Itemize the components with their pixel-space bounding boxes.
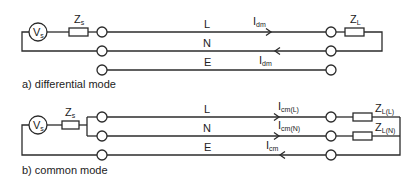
conductor-label-l: L — [204, 103, 210, 115]
caption-common-mode: b) common mode — [22, 164, 108, 176]
svg-text:ZL(N): ZL(N) — [375, 121, 395, 135]
voltage-source-icon: Vs — [29, 23, 47, 41]
svg-text:ZL: ZL — [350, 13, 361, 26]
conductor-label-l: L — [204, 18, 210, 30]
emc-mode-diagram: Vs Zs L N E Idm Idm ZL — [0, 0, 418, 183]
load-impedance-n-icon: ZL(N) — [353, 121, 395, 140]
terminal-icon — [97, 112, 107, 122]
load-impedance-icon: ZL — [345, 13, 364, 36]
svg-text:Zs: Zs — [65, 106, 76, 119]
conductor-label-e: E — [204, 141, 211, 153]
terminal-icon — [326, 65, 336, 75]
terminal-icon — [326, 131, 336, 141]
current-label-cm-e: Icm — [266, 139, 279, 152]
terminal-icon — [326, 27, 336, 37]
voltage-source-icon: Vs — [29, 116, 47, 134]
conductor-label-e: E — [204, 56, 211, 68]
caption-differential-mode: a) differential mode — [22, 78, 116, 90]
load-impedance-l-icon: ZL(L) — [353, 102, 394, 121]
differential-mode-circuit: Vs Zs L N E Idm Idm ZL — [22, 13, 382, 90]
terminal-icon — [97, 46, 107, 56]
terminal-icon — [97, 27, 107, 37]
terminal-icon — [97, 131, 107, 141]
current-label-dm-l: Idm — [253, 15, 266, 28]
terminal-icon — [97, 150, 107, 160]
terminal-icon — [97, 65, 107, 75]
common-mode-circuit: Vs Zs L N E Icm(L) Icm(N) Icm ZL — [22, 100, 400, 176]
source-impedance-icon: Zs — [62, 106, 79, 129]
terminal-icon — [326, 150, 336, 160]
svg-text:Zs: Zs — [74, 13, 85, 26]
terminal-icon — [326, 112, 336, 122]
current-label-cm-n: Icm(N) — [278, 119, 300, 133]
current-label-dm-n: Idm — [259, 54, 272, 67]
source-impedance-icon: Zs — [69, 13, 88, 36]
terminal-icon — [326, 46, 336, 56]
conductor-label-n: N — [203, 37, 211, 49]
current-label-cm-l: Icm(L) — [278, 100, 299, 114]
svg-text:ZL(L): ZL(L) — [375, 102, 394, 116]
conductor-label-n: N — [203, 122, 211, 134]
